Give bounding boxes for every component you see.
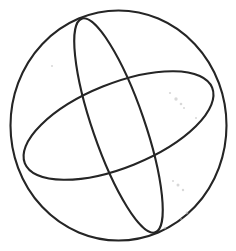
sphere-figure: Sphere with three great circles Hand-dra…	[0, 0, 236, 251]
pencil-smudge	[195, 117, 197, 119]
figure-background	[0, 0, 236, 251]
pencil-smudge	[186, 212, 189, 215]
pencil-smudge	[180, 103, 183, 106]
sphere-line-drawing	[0, 0, 236, 251]
pencil-smudge	[169, 92, 171, 94]
pencil-smudge	[174, 97, 177, 100]
pencil-smudge	[183, 107, 185, 109]
pencil-smudge	[164, 227, 166, 229]
pencil-smudge	[51, 65, 53, 67]
pencil-smudge	[177, 184, 180, 187]
pencil-smudge	[172, 180, 174, 182]
pencil-smudge	[180, 218, 182, 220]
pencil-smudge	[182, 189, 184, 191]
